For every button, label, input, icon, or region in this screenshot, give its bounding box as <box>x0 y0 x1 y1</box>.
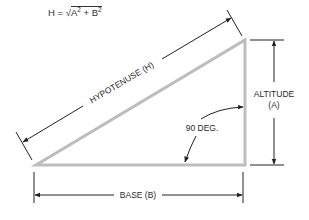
hypotenuse-arrow-lower <box>23 106 83 142</box>
angle-label: 90 DEG. <box>186 123 219 133</box>
altitude-label-line2: (A) <box>268 100 280 110</box>
right-triangle-diagram: HYPOTENUSE (H) ALTITUDE (A) BASE (B) 90 … <box>0 0 309 220</box>
base-dimension: BASE (B) <box>34 172 243 203</box>
angle-arc-lower <box>185 136 196 162</box>
base-label: BASE (B) <box>120 190 157 200</box>
altitude-label-line1: ALTITUDE <box>254 89 295 99</box>
hypotenuse-dimension: HYPOTENUSE (H) <box>16 10 242 160</box>
hypotenuse-tick-lower <box>16 132 32 160</box>
hypotenuse-tick-upper <box>227 10 242 36</box>
altitude-dimension: ALTITUDE (A) <box>250 40 295 165</box>
right-angle-indicator: 90 DEG. <box>185 107 243 162</box>
angle-arc-upper <box>201 107 243 119</box>
right-triangle <box>36 40 245 165</box>
